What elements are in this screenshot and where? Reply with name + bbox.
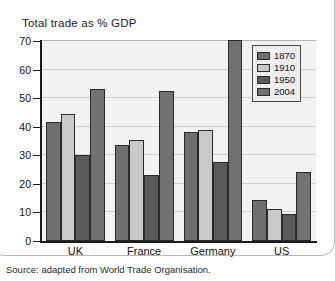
x-label-germany: Germany	[190, 245, 235, 257]
bar-uk-2004	[90, 89, 105, 241]
bar-germany-1870	[184, 132, 199, 241]
legend-item-1870: 1870	[257, 50, 295, 61]
y-tick-label-70: 70	[5, 35, 31, 47]
y-tick-label-50: 50	[5, 92, 31, 104]
y-tick-mark-60	[33, 70, 41, 71]
y-tick-mark-20	[33, 184, 41, 185]
y-tick-label-60: 60	[5, 64, 31, 76]
bar-group-uk	[41, 41, 110, 241]
y-tick-mark-10	[33, 212, 41, 213]
bar-france-1950	[144, 175, 159, 241]
bar-france-2004	[159, 91, 174, 241]
y-tick-label-30: 30	[5, 149, 31, 161]
legend-swatch-2004	[257, 88, 270, 96]
legend-label-1870: 1870	[274, 51, 295, 61]
x-axis-category-labels: UKFranceGermanyUS	[41, 245, 316, 263]
x-label-uk: UK	[68, 245, 83, 257]
x-axis-line	[40, 241, 317, 243]
bar-us-1950	[282, 214, 297, 241]
bar-germany-1910	[198, 130, 213, 241]
legend-item-1910: 1910	[257, 62, 295, 73]
bar-france-1870	[115, 145, 130, 241]
x-label-us: US	[274, 245, 289, 257]
legend-label-2004: 2004	[274, 87, 295, 97]
bar-us-1870	[252, 200, 267, 241]
bar-uk-1870	[46, 122, 61, 241]
legend-label-1950: 1950	[274, 75, 295, 85]
x-label-france: France	[127, 245, 161, 257]
bar-germany-2004	[228, 40, 243, 241]
y-tick-label-10: 10	[5, 206, 31, 218]
y-tick-mark-50	[33, 98, 41, 99]
bar-germany-1950	[213, 162, 228, 241]
chart-legend: 1870191019502004	[252, 45, 301, 102]
y-axis-tick-labels: 010203040506070	[0, 41, 31, 241]
bar-us-1910	[267, 209, 282, 241]
y-tick-mark-70	[33, 41, 41, 42]
y-tick-label-20: 20	[5, 178, 31, 190]
y-tick-mark-0	[33, 241, 41, 242]
bar-france-1910	[129, 140, 144, 241]
legend-item-2004: 2004	[257, 86, 295, 97]
legend-swatch-1950	[257, 76, 270, 84]
y-tick-mark-40	[33, 127, 41, 128]
y-tick-label-40: 40	[5, 121, 31, 133]
bar-uk-1910	[61, 114, 76, 241]
bar-us-2004	[296, 172, 311, 241]
legend-swatch-1910	[257, 64, 270, 72]
source-note: Source: adapted from World Trade Organis…	[6, 264, 211, 275]
bar-group-germany	[179, 41, 248, 241]
legend-item-1950: 1950	[257, 74, 295, 85]
bar-uk-1950	[75, 155, 90, 241]
legend-label-1910: 1910	[274, 63, 295, 73]
bar-group-france	[110, 41, 179, 241]
y-tick-label-0: 0	[5, 235, 31, 247]
y-tick-mark-30	[33, 155, 41, 156]
chart-title: Total trade as % GDP	[22, 17, 137, 29]
legend-swatch-1870	[257, 52, 270, 60]
